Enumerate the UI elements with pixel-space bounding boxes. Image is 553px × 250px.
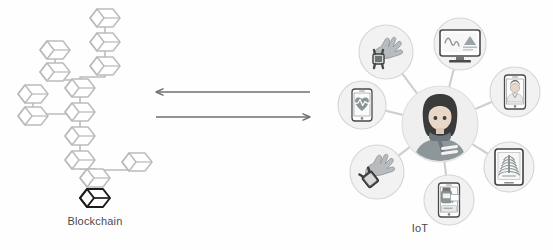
tablet-xray-icon	[484, 142, 534, 192]
iot-spoke	[473, 145, 487, 154]
iot-diagram	[0, 0, 553, 250]
iot-label: IoT	[370, 222, 470, 234]
wristband-hand-icon	[350, 145, 404, 199]
iot-hub	[402, 86, 478, 164]
patient-avatar	[402, 86, 478, 164]
figure-canvas: Blockchain IoT	[0, 0, 553, 250]
phone-doctor-icon	[490, 67, 540, 117]
smartwatch-hand-icon	[359, 25, 413, 79]
iot-spoke	[403, 74, 417, 92]
iot-spoke	[476, 102, 491, 108]
iot-spoke	[449, 70, 453, 86]
phone-heartrate-icon	[338, 81, 386, 129]
iot-spoke	[386, 111, 402, 115]
phone-medication-icon	[424, 175, 474, 225]
iot-spoke	[399, 148, 409, 155]
iot-spoke	[445, 163, 446, 174]
desktop-monitor-icon	[434, 18, 486, 70]
